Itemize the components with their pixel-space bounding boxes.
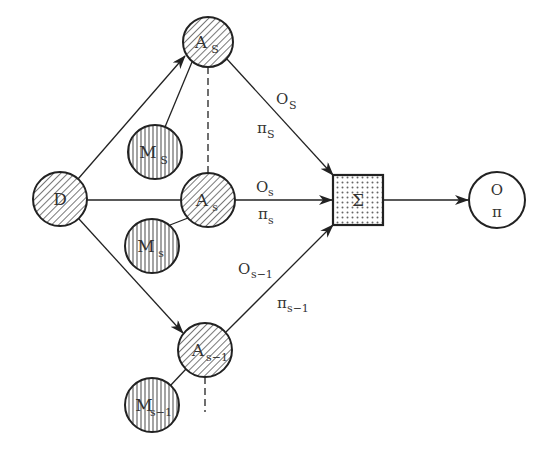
- svg-text:s−1: s−1: [287, 302, 309, 315]
- diagram-canvas: D A S M S A s M s A s−1 M s−1 Σ O π: [0, 0, 553, 456]
- svg-text:s: s: [268, 214, 274, 227]
- svg-text:O: O: [491, 181, 503, 199]
- svg-text:Σ: Σ: [352, 190, 364, 210]
- svg-text:s: s: [268, 186, 274, 199]
- edge-m-bot-to-a-bot: [170, 369, 186, 386]
- svg-text:O: O: [238, 260, 250, 278]
- edge-a-bot-to-sum: [226, 225, 333, 332]
- svg-text:s−1: s−1: [150, 406, 172, 419]
- svg-text:π: π: [257, 119, 267, 137]
- svg-text:S: S: [211, 43, 219, 56]
- node-a-top: A S: [183, 17, 233, 67]
- node-m-mid: M s: [125, 219, 179, 273]
- svg-text:S: S: [289, 99, 297, 112]
- node-d: D: [33, 172, 87, 226]
- svg-text:O: O: [256, 178, 268, 196]
- svg-text:π: π: [492, 203, 502, 221]
- edge-label-bot-o: O s−1: [238, 260, 273, 281]
- svg-text:π: π: [277, 294, 287, 312]
- node-m-top: M S: [128, 125, 182, 179]
- node-output: O π: [469, 172, 525, 228]
- edge-label-top-o: O S: [276, 90, 297, 112]
- node-a-bot: A s−1: [178, 323, 232, 377]
- svg-text:O: O: [276, 90, 288, 108]
- edge-label-top-pi: π S: [257, 119, 275, 141]
- node-a-mid: A s: [181, 173, 235, 227]
- svg-text:A: A: [191, 340, 205, 360]
- edge-a-top-to-sum: [226, 58, 333, 175]
- svg-text:s−1: s−1: [251, 268, 273, 281]
- svg-text:M: M: [139, 142, 156, 162]
- edge-label-bot-pi: π s−1: [277, 294, 309, 315]
- edge-m-top-to-a-top: [165, 62, 192, 127]
- svg-text:s−1: s−1: [206, 351, 228, 364]
- svg-text:D: D: [53, 189, 67, 209]
- svg-text:π: π: [258, 205, 268, 223]
- svg-text:M: M: [137, 236, 154, 256]
- svg-text:A: A: [195, 190, 209, 210]
- svg-text:S: S: [267, 128, 275, 141]
- svg-text:S: S: [160, 154, 168, 167]
- svg-text:s: s: [212, 201, 218, 214]
- node-m-bot: M s−1: [125, 378, 179, 432]
- node-sum: Σ: [333, 175, 383, 225]
- svg-text:s: s: [158, 247, 164, 260]
- edge-label-mid-o: O s: [256, 178, 274, 199]
- edge-m-mid-to-a-mid: [170, 218, 188, 225]
- edge-label-mid-pi: π s: [258, 205, 274, 227]
- svg-text:A: A: [194, 32, 208, 52]
